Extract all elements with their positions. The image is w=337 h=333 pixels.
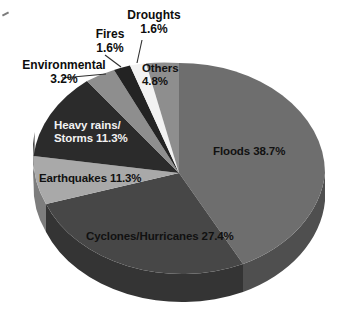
pie-chart-canvas [0,0,337,333]
slice-label-droughts: Droughts 1.6% [116,8,192,36]
slice-label-cyclones: Cyclones/Hurricanes 27.4% [86,230,234,243]
slice-label-others: Others 4.8% [142,62,178,88]
slice-label-floods: Floods 38.7% [213,145,285,158]
slice-label-earthquakes: Earthquakes 11.3% [39,172,142,185]
pie-chart-figure: Floods 38.7% Cyclones/Hurricanes 27.4% E… [0,0,337,333]
slice-label-environmental: Environmental 3.2% [2,58,126,86]
slice-label-heavy-rains: Heavy rains/ Storms 11.3% [54,119,128,145]
